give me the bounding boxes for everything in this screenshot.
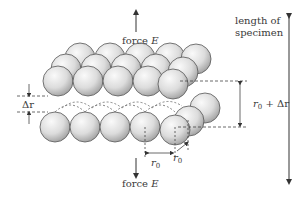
force-bottom-label: force E [122, 178, 159, 189]
r0-horizontal-label: r0 [151, 157, 160, 170]
specimen-length-label-line2: specimen [235, 27, 284, 38]
lattice-diagram: Δr r0 + Δr r0 r0 force E force E length … [0, 0, 307, 198]
atom-sphere [158, 69, 188, 99]
atom-sphere [43, 66, 73, 96]
dashed-arcs [55, 101, 182, 112]
atom-sphere [100, 112, 130, 142]
upper-layer-front-row [43, 66, 188, 99]
force-top-label: force E [122, 35, 159, 46]
r0-diagonal-label: r0 [173, 152, 182, 165]
atom-sphere [70, 112, 100, 142]
r0-plus-delta-r-label: r0 + Δr [253, 98, 289, 111]
atom-sphere [103, 66, 133, 96]
atom-sphere [73, 66, 103, 96]
lower-layer-front-row [40, 112, 190, 145]
atom-sphere [40, 112, 70, 142]
specimen-length-label-line1: length of [235, 15, 282, 26]
delta-r-label: Δr [22, 99, 34, 110]
